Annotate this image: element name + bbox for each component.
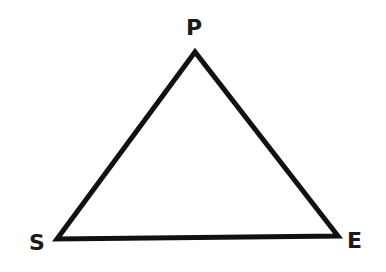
triangle-diagram: [0, 0, 386, 272]
triangle-outline: [57, 52, 338, 239]
vertex-label-p: P: [186, 17, 202, 39]
vertex-label-e: E: [347, 230, 362, 252]
vertex-label-s: S: [29, 232, 45, 254]
triangle-shape: [0, 0, 386, 272]
